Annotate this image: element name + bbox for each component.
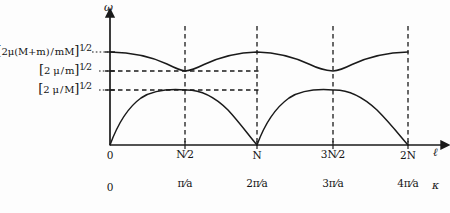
k-tick-label-4pi-a: 4π⁄a xyxy=(397,178,419,189)
dispersion-plot xyxy=(0,0,450,213)
y-axis-label: ω xyxy=(104,2,113,13)
figure-canvas: [2μ(M+m)/mM]1⁄2 [2 μ/m]1⁄2 [2 μ/M]1⁄2 ω … xyxy=(0,0,450,213)
k-tick-label-0: 0 xyxy=(107,182,114,193)
x-tick-label-3n-half: 3N⁄2 xyxy=(321,149,345,160)
y-label-optical-min: [2 μ/m]1⁄2 xyxy=(39,63,92,76)
y-label-acoustic-max: [2 μ/M]1⁄2 xyxy=(38,82,92,95)
k-tick-label-pi-a: π⁄a xyxy=(178,178,193,189)
x-tick-label-2n: 2N xyxy=(400,150,416,161)
x-tick-label-n: N xyxy=(252,150,261,161)
x-tick-label-n-half: N⁄2 xyxy=(176,149,194,160)
y-label-optical-max: [2μ(M+m)/mM]1⁄2 xyxy=(0,44,92,57)
x-tick-label-0: 0 xyxy=(107,150,114,161)
x-axis-label: ℓ xyxy=(433,147,438,158)
k-axis-label: κ xyxy=(432,180,439,191)
k-tick-label-3pi-a: 3π⁄a xyxy=(322,178,344,189)
k-tick-label-2pi-a: 2π⁄a xyxy=(246,178,268,189)
acoustic-branch-arch-1 xyxy=(110,90,257,145)
optical-branch-curve xyxy=(110,52,408,71)
